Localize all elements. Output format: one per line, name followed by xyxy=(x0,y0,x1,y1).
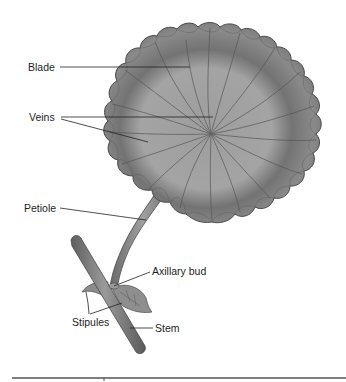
label-stem: Stem xyxy=(155,323,180,334)
label-stipules: Stipules xyxy=(72,317,109,328)
stipules-leader-left xyxy=(86,292,89,314)
label-petiole: Petiole xyxy=(24,203,56,214)
label-axillary-bud: Axillary bud xyxy=(152,266,206,277)
petiole-leader xyxy=(60,208,146,220)
label-veins: Veins xyxy=(29,112,55,123)
leaf-blade xyxy=(104,23,322,223)
bottom-rule xyxy=(12,378,346,381)
label-blade: Blade xyxy=(28,62,55,73)
